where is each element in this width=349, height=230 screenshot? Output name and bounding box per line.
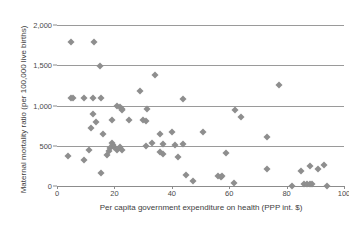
data-point [174, 154, 181, 161]
data-point [297, 168, 304, 175]
data-point [91, 38, 98, 45]
data-point [223, 149, 230, 156]
x-tick-mark [229, 186, 230, 189]
data-point [183, 172, 190, 179]
x-tick-label: 80 [282, 189, 290, 198]
x-tick-mark [344, 186, 345, 189]
data-point [65, 152, 72, 159]
data-point [118, 147, 125, 154]
x-axis-title: Per capita government expenditure on hea… [57, 203, 345, 212]
data-point [168, 129, 175, 136]
data-point [98, 95, 105, 102]
data-point [68, 38, 75, 45]
data-point [315, 166, 322, 173]
data-point [137, 87, 144, 94]
data-point [276, 81, 283, 88]
data-point [231, 107, 238, 114]
y-tick-label: 2,000 [8, 21, 52, 30]
data-point [89, 95, 96, 102]
y-tick-label: 1,500 [8, 61, 52, 70]
data-point [263, 133, 270, 140]
data-point [89, 110, 96, 117]
data-point [160, 150, 167, 157]
data-point [142, 117, 149, 124]
data-point [237, 114, 244, 121]
data-point [171, 141, 178, 148]
data-point [92, 118, 99, 125]
gridline-y-2000 [57, 25, 344, 26]
data-point [108, 116, 115, 123]
data-point [81, 95, 88, 102]
data-point [88, 124, 95, 131]
y-axis-title: Maternal mortality ratio (per 100,000 li… [19, 20, 28, 200]
data-point [81, 157, 88, 164]
data-point [85, 147, 92, 154]
gridline-y-1000 [57, 106, 344, 107]
data-point [263, 166, 270, 173]
data-point [180, 96, 187, 103]
x-tick-mark [172, 186, 173, 189]
x-tick-mark [57, 186, 58, 189]
data-point [190, 178, 197, 185]
x-axis-line [57, 186, 345, 187]
x-tick-mark [114, 186, 115, 189]
x-tick-mark [287, 186, 288, 189]
data-point [151, 71, 158, 78]
data-point [97, 63, 104, 70]
y-tick-label: 0 [8, 182, 52, 191]
data-point [200, 128, 207, 135]
x-tick-label: 20 [110, 189, 118, 198]
data-point [99, 131, 106, 138]
x-tick-label: 60 [225, 189, 233, 198]
data-point [125, 116, 132, 123]
x-tick-label: 100 [338, 189, 349, 198]
y-tick-label: 500 [8, 141, 52, 150]
scatter-chart: 05001,0001,5002,000 020406080100 Per cap… [0, 0, 349, 230]
data-point [157, 131, 164, 138]
y-tick-label: 1,000 [8, 101, 52, 110]
plot-area [57, 25, 344, 186]
gridline-y-500 [57, 146, 344, 147]
x-tick-label: 40 [168, 189, 176, 198]
data-point [306, 162, 313, 169]
data-point [98, 169, 105, 176]
x-tick-label: 0 [55, 189, 59, 198]
